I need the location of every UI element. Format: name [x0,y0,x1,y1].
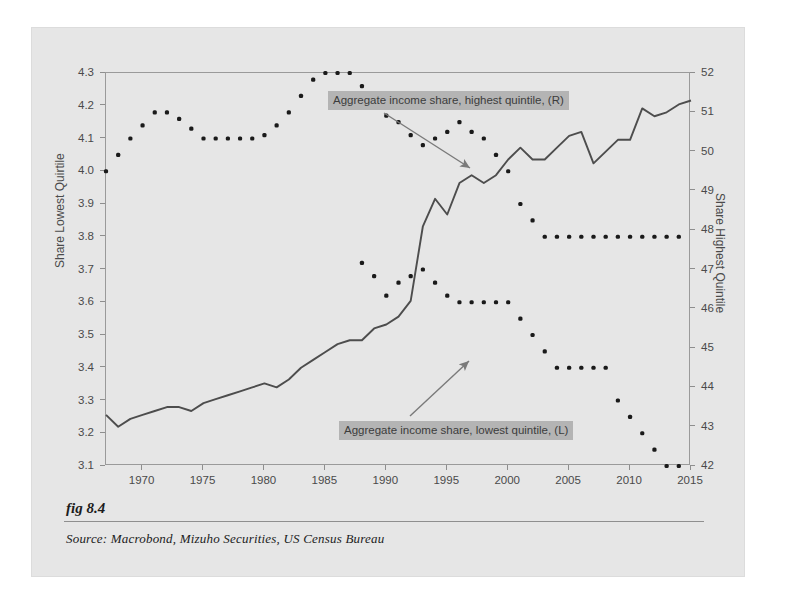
left-tick-label: 4.2 [56,99,94,111]
lowest-quintile-dot [604,235,608,239]
right-tick-label: 52 [701,66,714,78]
bottom-tick-label: 1980 [251,474,277,486]
lowest-quintile-dot [421,267,425,271]
right-tick-label: 42 [701,459,714,471]
lowest-quintile-dot [494,153,498,157]
annotation-lowest-quintile: Aggregate income share, lowest quintile,… [339,421,573,440]
figure-number: fig 8.4 [66,500,704,517]
lowest-quintile-dot [323,71,327,75]
lowest-quintile-dot [421,143,425,147]
right-tick-label: 45 [701,341,714,353]
lowest-quintile-dot [579,235,583,239]
lowest-quintile-dot [494,300,498,304]
plot-series-svg [106,73,691,466]
lowest-quintile-dot [396,281,400,285]
lowest-quintile-dot [409,133,413,137]
right-axis-title: Share Highest Quintile [713,193,727,313]
lowest-quintile-dot [652,448,656,452]
left-tick-label: 3.5 [56,328,94,340]
lowest-quintile-dot [189,127,193,131]
lowest-quintile-dot [470,300,474,304]
lowest-quintile-dot [567,235,571,239]
lowest-quintile-dot [628,235,632,239]
lowest-quintile-dot [543,349,547,353]
lowest-quintile-dot [506,169,510,173]
lowest-quintile-dot [433,136,437,140]
bottom-tick-label: 1990 [373,474,399,486]
lowest-quintile-dot [445,130,449,134]
figure-area: Share Lowest Quirtile Share Highest Quin… [32,28,744,576]
left-tick-label: 3.9 [56,197,94,209]
lowest-quintile-dot [518,202,522,206]
lowest-quintile-dot [250,136,254,140]
highest-quintile-path [106,101,691,427]
caption-divider [64,521,704,522]
lowest-quintile-dot [457,120,461,124]
left-tick-label: 3.6 [56,295,94,307]
lowest-quintile-dot [360,84,364,88]
source-line: Source: Macrobond, Mizuho Securities, US… [66,531,704,547]
lowest-quintile-dot [530,218,534,222]
lowest-quintile-dot [665,235,669,239]
left-tick-label: 4.3 [56,66,94,78]
lowest-quintile-dot [128,136,132,140]
lowest-quintile-dot [482,136,486,140]
right-tick-label: 49 [701,184,714,196]
left-tick-label: 3.3 [56,394,94,406]
lowest-quintile-dot [530,333,534,337]
lowest-quintile-dot [433,281,437,285]
lowest-quintile-dot [652,235,656,239]
lowest-quintile-dot [214,136,218,140]
lowest-quintile-dot [470,130,474,134]
lowest-quintile-dot [518,317,522,321]
lowest-quintile-dot [262,133,266,137]
left-tick-label: 4.1 [56,132,94,144]
lowest-quintile-dot [506,300,510,304]
lowest-quintile-dot [591,235,595,239]
lowest-quintile-dot [555,366,559,370]
right-tick-label: 48 [701,223,714,235]
lowest-quintile-dot [640,431,644,435]
bottom-tick-label: 1985 [312,474,338,486]
lowest-quintile-dot [116,153,120,157]
lowest-quintile-dot [579,366,583,370]
lowest-quintile-dot [372,274,376,278]
left-tick-label: 3.4 [56,361,94,373]
left-tick-label: 3.8 [56,230,94,242]
lowest-quintile-dot [482,300,486,304]
caption-block: fig 8.4 Source: Macrobond, Mizuho Securi… [64,500,704,547]
lowest-quintile-dot [335,71,339,75]
lowest-quintile-dot [445,294,449,298]
lowest-quintile-dot [287,110,291,114]
bottom-tick-label: 2000 [494,474,520,486]
bottom-tick-label: 2010 [616,474,642,486]
lowest-quintile-dot [275,123,279,127]
lowest-quintile-dot [665,464,669,468]
lowest-quintile-dot [555,235,559,239]
lowest-quintile-dot [104,169,108,173]
figure-sheet: Share Lowest Quirtile Share Highest Quin… [32,28,744,576]
lowest-quintile-dot [591,366,595,370]
lowest-quintile-dot [396,120,400,124]
lowest-quintile-dot [153,110,157,114]
right-tick-label: 50 [701,145,714,157]
lowest-quintile-dot [201,136,205,140]
lowest-quintile-dot [384,294,388,298]
bottom-tick-label: 1970 [129,474,155,486]
left-tick-label: 3.7 [56,263,94,275]
bottom-tick-label: 1975 [190,474,216,486]
lowest-quintile-dot [226,136,230,140]
lowest-quintile-dot [640,235,644,239]
bottom-tick-label: 2005 [555,474,581,486]
lowest-quintile-dot [299,94,303,98]
series-lowest-quintile-dots [104,71,681,468]
left-tick-label: 3.1 [56,459,94,471]
lowest-quintile-dot [311,77,315,81]
bottom-tick-label: 2015 [677,474,703,486]
lowest-quintile-dot [628,415,632,419]
series-highest-quintile-line [106,101,691,427]
lowest-quintile-dot [604,366,608,370]
left-tick-label: 3.2 [56,426,94,438]
left-tick-label: 4.0 [56,164,94,176]
page-canvas: Share Lowest Quirtile Share Highest Quin… [0,0,792,612]
